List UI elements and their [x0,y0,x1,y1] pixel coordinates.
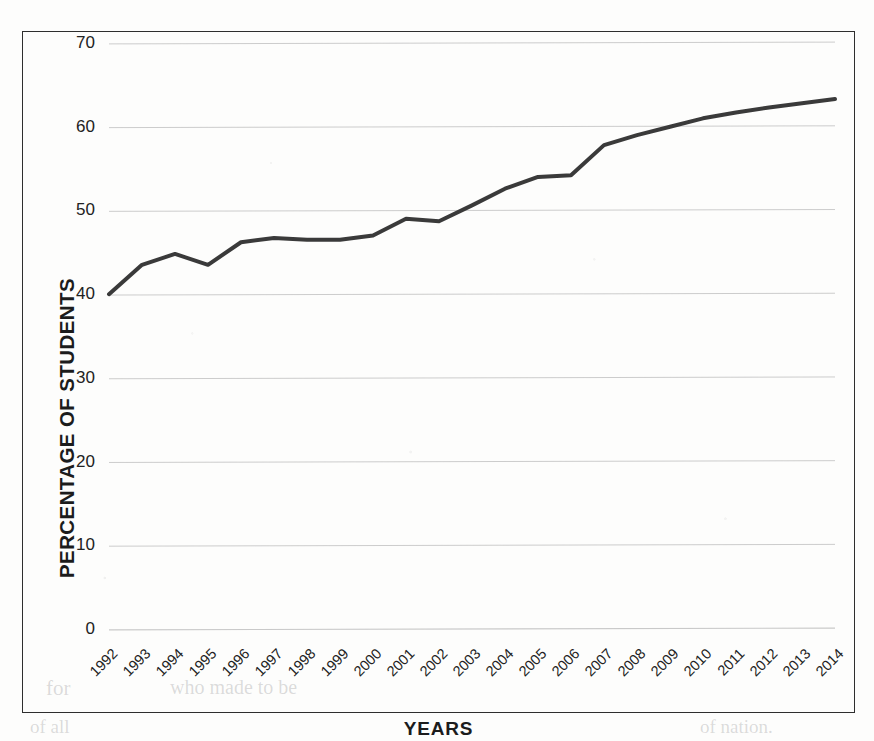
y-axis-tick-label: 0 [51,619,95,639]
gridline [109,126,835,128]
gridline [109,628,835,630]
gridline [109,461,835,463]
chart-plot-area [23,32,854,712]
y-axis-tick-label: 30 [51,368,95,388]
y-axis-tick-label: 10 [51,535,95,555]
chart-frame: PERCENTAGE OF STUDENTS YEARS 01020304050… [22,31,855,713]
gridline [109,210,835,212]
y-axis-tick-label: 60 [51,117,95,137]
y-axis-tick-label: 70 [51,33,95,53]
gridline [109,42,835,44]
gridline [109,544,835,546]
y-axis-tick-label: 50 [51,200,95,220]
y-axis-tick-label: 40 [51,284,95,304]
gridline [109,377,835,379]
line-chart [23,32,856,714]
data-line [109,99,835,294]
y-axis-title: PERCENTAGE OF STUDENTS [54,218,80,638]
x-axis-title: YEARS [23,718,854,740]
y-axis-tick-label: 20 [51,452,95,472]
gridline [109,293,835,295]
